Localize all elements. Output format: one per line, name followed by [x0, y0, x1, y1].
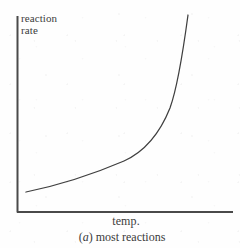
- caption-close-paren: ): [89, 230, 93, 244]
- x-axis-label: temp.: [0, 214, 240, 229]
- y-axis-label-line2: rate: [21, 25, 57, 37]
- y-axis-label: reaction rate: [21, 13, 57, 36]
- reaction-rate-curve: [26, 15, 188, 192]
- figure-container: reaction rate temp. (a) most reactions: [0, 0, 240, 248]
- y-axis-label-line1: reaction: [21, 13, 57, 25]
- figure-caption: (a) most reactions: [0, 230, 240, 245]
- caption-text: most reactions: [96, 230, 166, 244]
- plot-area: [0, 0, 240, 248]
